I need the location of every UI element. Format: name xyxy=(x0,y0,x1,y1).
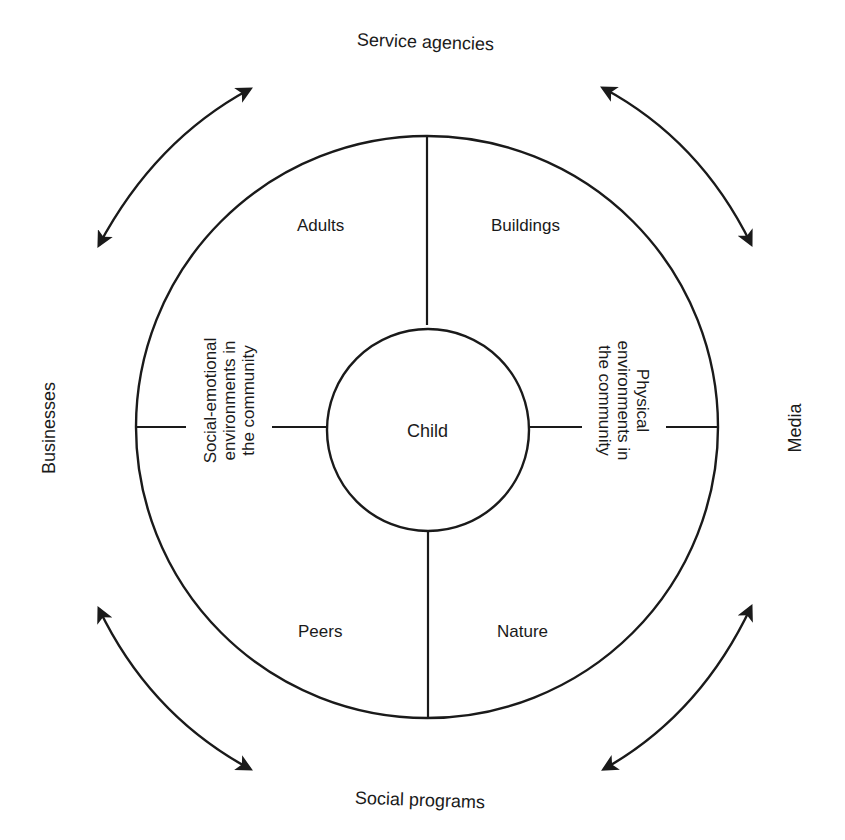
label-social-emotional-line-3: the community xyxy=(239,331,258,471)
label-adults: Adults xyxy=(297,216,344,236)
label-buildings: Buildings xyxy=(491,216,560,236)
label-physical-line-2: environments in xyxy=(614,331,633,471)
label-media: Media xyxy=(785,403,805,453)
label-social-emotional-line-2: environments in xyxy=(220,331,239,471)
label-nature: Nature xyxy=(497,622,548,642)
diagram-graphics xyxy=(0,0,845,840)
label-social-emotional-line-1: Social-emotional xyxy=(201,331,220,471)
label-social-emotional-environments: Social-emotional environments in the com… xyxy=(201,331,258,471)
label-physical-line-1: Physical xyxy=(633,331,652,471)
label-child: Child xyxy=(407,421,448,441)
label-businesses: Businesses xyxy=(39,384,59,474)
arrow-bottom-left xyxy=(99,609,250,769)
arrow-top-left xyxy=(99,89,250,245)
child-environment-diagram: Service agencies Social programs Busines… xyxy=(0,0,845,840)
label-physical-environments: Physical environments in the community xyxy=(595,331,652,471)
label-peers: Peers xyxy=(298,622,342,642)
label-physical-line-3: the community xyxy=(595,331,614,471)
arrow-top-right xyxy=(603,88,751,244)
arrow-bottom-right xyxy=(604,607,751,769)
